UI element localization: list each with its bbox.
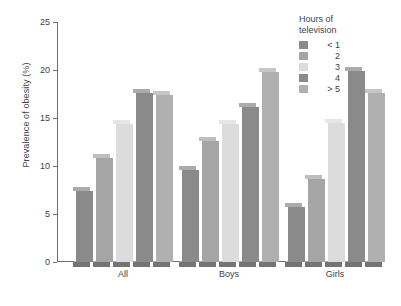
y-tick-label: 15 (40, 113, 50, 123)
bar (219, 120, 239, 262)
legend-item-label: > 5 (314, 84, 340, 94)
bar-base-shadow (113, 262, 130, 267)
bar-base-shadow (199, 262, 216, 267)
bar-base-shadow (285, 262, 302, 267)
bar-base-shadow (133, 262, 150, 267)
bar (179, 166, 199, 262)
bar (285, 203, 305, 262)
legend-swatch-icon (299, 52, 308, 60)
category-label-girls: Girls (275, 269, 395, 279)
legend-item[interactable]: 2 (287, 50, 399, 61)
bar (365, 89, 385, 262)
bar-base-shadow (153, 262, 170, 267)
legend-swatch-icon (299, 85, 308, 93)
legend-items: < 1234> 5 (287, 39, 399, 94)
bar (305, 175, 325, 262)
bar-front-face (308, 179, 325, 262)
legend-item-label: 2 (314, 51, 340, 61)
bar (73, 187, 93, 262)
bar (199, 137, 219, 262)
y-tick-label: 20 (40, 65, 50, 75)
legend-swatch-icon (299, 41, 308, 49)
y-tick-label: 5 (45, 209, 50, 219)
legend-item[interactable]: 3 (287, 61, 399, 72)
bar-front-face (242, 107, 259, 262)
bar-base-shadow (239, 262, 256, 267)
bar-base-shadow (365, 262, 382, 267)
bar-base-shadow (179, 262, 196, 267)
legend-title: Hours of television (299, 14, 399, 36)
category-label-boys: Boys (169, 269, 289, 279)
bar-front-face (288, 207, 305, 262)
bar-base-shadow (345, 262, 362, 267)
legend-swatch-icon (299, 63, 308, 71)
bar-front-face (136, 93, 153, 262)
obesity-television-bar-chart: Prevalence of obesity (%) 0510152025 All… (0, 0, 401, 306)
bar-front-face (328, 123, 345, 262)
y-axis-label: Prevalence of obesity (%) (21, 45, 31, 185)
bar (133, 89, 153, 262)
bar-base-shadow (325, 262, 342, 267)
bar-front-face (222, 124, 239, 262)
legend-title-line-2: television (299, 25, 399, 36)
legend-swatch-icon (299, 74, 308, 82)
bar (113, 120, 133, 262)
bar-base-shadow (259, 262, 276, 267)
bar-base-shadow (93, 262, 110, 267)
bar-base-shadow (219, 262, 236, 267)
bar-front-face (348, 71, 365, 262)
bar (345, 67, 365, 262)
bar-group-boys (179, 22, 279, 262)
legend-title-line-1: Hours of (299, 14, 399, 25)
bar-group-all (73, 22, 173, 262)
legend-item-label: 4 (314, 73, 340, 83)
bar-front-face (202, 141, 219, 262)
legend-item[interactable]: < 1 (287, 39, 399, 50)
bar (239, 103, 259, 262)
bar-front-face (156, 95, 173, 262)
bar-front-face (96, 158, 113, 262)
bar-front-face (262, 72, 279, 262)
legend-item-label: 3 (314, 62, 340, 72)
y-tick-label: 25 (40, 17, 50, 27)
y-tick-label: 10 (40, 161, 50, 171)
category-label-all: All (63, 269, 183, 279)
bar-base-shadow (305, 262, 322, 267)
bar-base-shadow (73, 262, 90, 267)
bar-front-face (76, 191, 93, 262)
bar (325, 119, 345, 262)
bar-front-face (182, 170, 199, 262)
y-tick-label: 0 (45, 257, 50, 267)
bar (93, 154, 113, 262)
legend: Hours of television < 1234> 5 (287, 14, 399, 94)
bar-front-face (116, 124, 133, 262)
y-tick-mark (53, 262, 57, 263)
bar (259, 68, 279, 262)
bar-front-face (368, 93, 385, 262)
legend-item[interactable]: 4 (287, 72, 399, 83)
bar (153, 91, 173, 262)
legend-item-label: < 1 (314, 40, 340, 50)
